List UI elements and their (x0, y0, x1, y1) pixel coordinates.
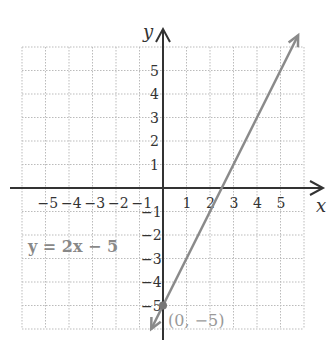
x-tick-label: −2 (108, 195, 129, 211)
x-tick-label: 1 (183, 195, 192, 211)
x-tick-label: −3 (85, 195, 106, 211)
y-axis-label: y (142, 21, 154, 42)
y-tick-label: −4 (141, 274, 162, 290)
x-tick-label: −4 (61, 195, 82, 211)
axes (10, 29, 323, 340)
equation-label: y = 2x − 5 (27, 237, 118, 256)
y-tick-label: 5 (150, 63, 159, 79)
y-tick-label: 4 (150, 86, 159, 102)
y-tick-label: 2 (150, 133, 159, 149)
line-series (151, 35, 298, 329)
y-tick-label: 3 (150, 110, 159, 126)
series-line (151, 35, 298, 329)
point-label: (0, −5) (168, 311, 224, 330)
x-axis-label: x (316, 195, 326, 216)
x-tick-label: −5 (38, 195, 59, 211)
coordinate-plane: −5−4−3−2−11234554321−1−2−3−4−5 y x (0, −… (0, 0, 334, 364)
y-tick-label: −1 (141, 204, 162, 220)
x-tick-label: 4 (253, 195, 262, 211)
y-tick-label: 1 (150, 157, 159, 173)
y-intercept-point (159, 302, 167, 310)
y-tick-label: −2 (141, 227, 162, 243)
y-tick-label: −5 (141, 298, 162, 314)
x-tick-label: 3 (230, 195, 239, 211)
x-tick-label: 5 (277, 195, 286, 211)
y-tick-label: −3 (141, 251, 162, 267)
